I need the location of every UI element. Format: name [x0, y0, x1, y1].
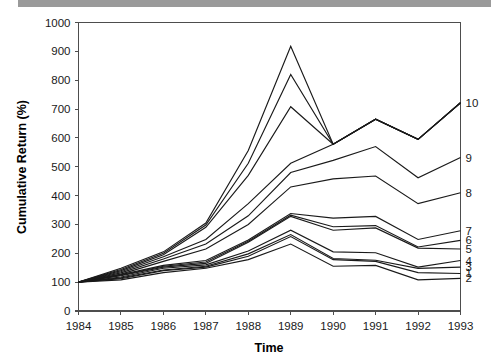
x-axis-title: Time: [255, 341, 284, 355]
series-label-4: 4: [466, 255, 473, 267]
series-end-labels: 12345678910: [466, 97, 479, 285]
y-tick-label: 1000: [45, 17, 71, 29]
x-tick-label: 1989: [278, 320, 304, 332]
x-tick-label: 1984: [66, 320, 92, 332]
series-label-2: 2: [466, 272, 472, 284]
x-tick-label: 1991: [363, 320, 389, 332]
series-line-10: [79, 103, 461, 282]
series-line-6: [79, 215, 461, 282]
cumulative-return-line-chart: 01002003004005006007008009001000 1984198…: [0, 0, 491, 359]
y-axis-title: Cumulative Return (%): [15, 100, 29, 234]
y-tick-label: 800: [51, 74, 70, 86]
series-label-9: 9: [466, 152, 472, 164]
x-tick-label: 1992: [405, 320, 431, 332]
x-tick-label: 1993: [448, 320, 474, 332]
x-tick-label: 1986: [151, 320, 177, 332]
series-label-8: 8: [466, 187, 472, 199]
series-line-upper-a: [79, 103, 461, 282]
y-tick-label: 0: [64, 305, 70, 317]
y-tick-label: 100: [51, 276, 70, 288]
x-tick-label: 1990: [320, 320, 346, 332]
y-tick-label: 200: [51, 247, 70, 259]
x-tick-label: 1988: [235, 320, 261, 332]
x-tick-label: 1985: [108, 320, 134, 332]
y-tick-label: 700: [51, 103, 70, 115]
series-lines-group: [79, 46, 461, 282]
y-axis-ticks: [75, 23, 79, 312]
series-label-7: 7: [466, 225, 472, 237]
y-tick-label: 500: [51, 161, 70, 173]
x-tick-label: 1987: [193, 320, 219, 332]
series-label-10: 10: [466, 97, 479, 109]
y-tick-label: 900: [51, 45, 70, 57]
x-axis-tick-labels: 1984198519861987198819891990199119921993: [66, 320, 474, 332]
y-tick-label: 600: [51, 132, 70, 144]
chart-svg: 01002003004005006007008009001000 1984198…: [0, 0, 491, 359]
y-axis-tick-labels: 01002003004005006007008009001000: [45, 17, 71, 318]
series-line-upper-b: [79, 74, 461, 282]
x-axis-ticks: [79, 311, 461, 315]
y-tick-label: 300: [51, 218, 70, 230]
y-tick-label: 400: [51, 190, 70, 202]
series-line-7: [79, 213, 461, 282]
